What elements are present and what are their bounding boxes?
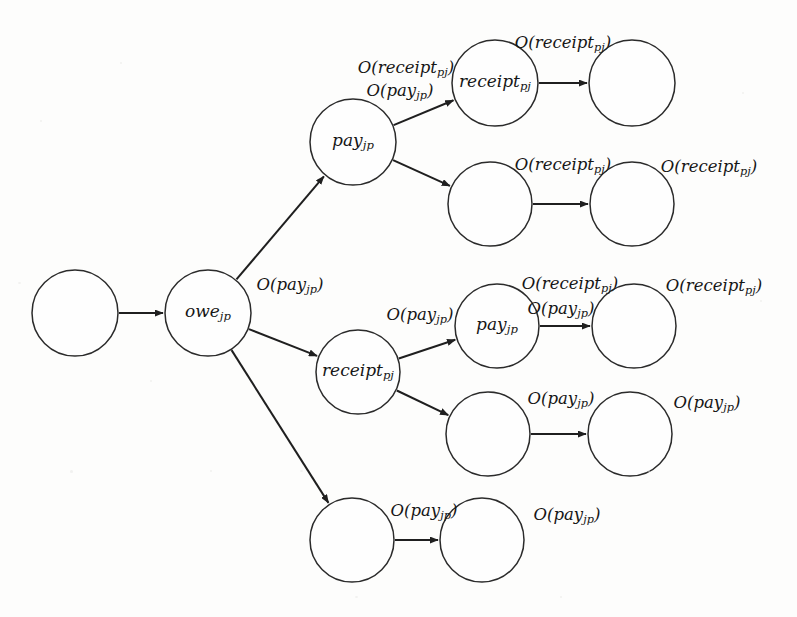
node-label-subscript: pj: [383, 368, 394, 382]
paper-speck: [70, 470, 73, 473]
edge-label-lbl-paytop-pay: O(payjp): [367, 83, 434, 101]
edge-label-lbl-owe-pay: O(payjp): [257, 277, 324, 295]
edge-owe-to-bot_left: [232, 350, 329, 503]
node-label-pay_mid: payjp: [476, 316, 518, 336]
edge-label-close-paren: ): [427, 81, 433, 100]
edge-label-text: O(pay: [528, 299, 578, 318]
edge-label-subscript: pj: [601, 282, 612, 295]
edge-label-text: O(pay: [534, 505, 584, 524]
edge-label-lbl-paytop-receipt: O(receiptpj): [358, 60, 454, 78]
paper-speck: [18, 282, 21, 284]
edge-label-text: O(receipt: [661, 157, 740, 176]
edge-label-close-paren: ): [594, 505, 600, 524]
edge-label-text: O(receipt: [515, 155, 594, 174]
edge-pay_top-to-mid_r2: [393, 160, 450, 186]
edge-label-close-paren: ): [588, 299, 594, 318]
node-circle-bot_left[interactable]: [310, 498, 394, 582]
node-label-subscript: pj: [520, 79, 531, 93]
edge-label-subscript: jp: [577, 307, 588, 320]
edge-label-lbl-rcptmid-pay: O(payjp): [387, 307, 454, 325]
edge-label-lbl-r2-receipt: O(receiptpj): [515, 157, 611, 175]
node-circle-mid_r4[interactable]: [446, 392, 530, 476]
edge-rcpt_mid-to-pay_mid: [399, 340, 455, 359]
edge-label-close-paren: ): [605, 33, 611, 52]
edge-rcpt_mid-to-mid_r4: [397, 391, 448, 416]
edge-label-lbl-r4-pay: O(payjp): [528, 391, 595, 409]
edge-label-close-paren: ): [734, 393, 740, 412]
paper-speck: [742, 92, 744, 94]
edge-label-close-paren: ): [605, 155, 611, 174]
edge-label-close-paren: ): [448, 58, 454, 77]
node-circle-end_r4[interactable]: [588, 392, 672, 476]
edge-label-subscript: pj: [594, 163, 605, 176]
edge-label-subscript: pj: [740, 165, 751, 178]
node-label-subscript: jp: [363, 138, 374, 152]
edge-owe-to-pay_top: [236, 176, 323, 279]
edge-label-lbl-r3-pay: O(payjp): [528, 301, 595, 319]
node-label-text: pay: [332, 130, 363, 150]
edge-label-close-paren: ): [588, 389, 594, 408]
node-circle-root[interactable]: [32, 270, 118, 356]
edge-label-close-paren: ): [447, 305, 453, 324]
edge-label-subscript: jp: [577, 397, 588, 410]
paper-speck: [355, 596, 358, 598]
paper-speck: [210, 470, 212, 472]
edge-label-subscript: jp: [583, 513, 594, 526]
edge-label-text: O(pay: [257, 275, 307, 294]
edge-label-close-paren: ): [756, 276, 762, 295]
paper-speck: [560, 596, 562, 598]
edge-label-close-paren: ): [751, 157, 757, 176]
paper-speck: [150, 380, 152, 382]
edge-label-text: O(pay: [674, 393, 724, 412]
node-label-text: receipt: [459, 71, 520, 91]
edge-label-text: O(pay: [391, 501, 441, 520]
paper-speck: [120, 62, 122, 64]
edge-label-lbl-r1-receipt: O(receiptpj): [515, 35, 611, 53]
paper-speck: [40, 120, 42, 122]
edge-label-subscript: jp: [436, 313, 447, 326]
node-label-text: pay: [476, 314, 507, 334]
edge-pay_top-to-rcpt_r1: [394, 100, 454, 125]
edge-label-close-paren: ): [612, 274, 618, 293]
edge-label-close-paren: ): [317, 275, 323, 294]
node-label-pay_top: payjp: [332, 132, 374, 152]
edge-label-text: O(receipt: [515, 33, 594, 52]
node-label-rcpt_mid: receiptpj: [322, 362, 394, 382]
paper-speck: [300, 470, 303, 472]
paper-speck: [648, 470, 650, 472]
node-label-owe: owejp: [185, 303, 231, 323]
node-circle-end_r3[interactable]: [592, 284, 676, 368]
edge-label-text: O(receipt: [358, 58, 437, 77]
paper-speck: [760, 300, 762, 302]
edge-label-lbl-r3-end: O(receiptpj): [666, 278, 762, 296]
edge-label-subscript: pj: [594, 41, 605, 54]
edge-label-lbl-bot-pay: O(payjp): [391, 503, 458, 521]
edge-label-subscript: jp: [306, 283, 317, 296]
edge-label-text: O(receipt: [666, 276, 745, 295]
edge-label-text: O(receipt: [522, 274, 601, 293]
edge-label-subscript: jp: [416, 89, 427, 102]
edge-label-subscript: jp: [723, 401, 734, 414]
node-label-subscript: jp: [220, 309, 231, 323]
node-label-subscript: jp: [507, 322, 518, 336]
edge-label-lbl-r4-end: O(payjp): [674, 395, 741, 413]
edge-label-subscript: jp: [440, 509, 451, 522]
edge-owe-to-rcpt_mid: [249, 329, 317, 356]
node-label-text: receipt: [322, 360, 383, 380]
edge-label-lbl-bot-end: O(payjp): [534, 507, 601, 525]
node-label-text: owe: [185, 301, 220, 321]
edge-label-close-paren: ): [451, 501, 457, 520]
edge-label-subscript: pj: [745, 284, 756, 297]
edge-label-lbl-r3-receipt: O(receiptpj): [522, 276, 618, 294]
node-label-rcpt_r1: receiptpj: [459, 73, 531, 93]
edge-label-text: O(pay: [367, 81, 417, 100]
event-tree-diagram: owejppayjpreceiptpjreceiptpjpayjp O(payj…: [0, 0, 797, 617]
edge-label-text: O(pay: [528, 389, 578, 408]
edge-label-lbl-r2-end: O(receiptpj): [661, 159, 757, 177]
edge-label-subscript: pj: [437, 66, 448, 79]
edge-label-text: O(pay: [387, 305, 437, 324]
